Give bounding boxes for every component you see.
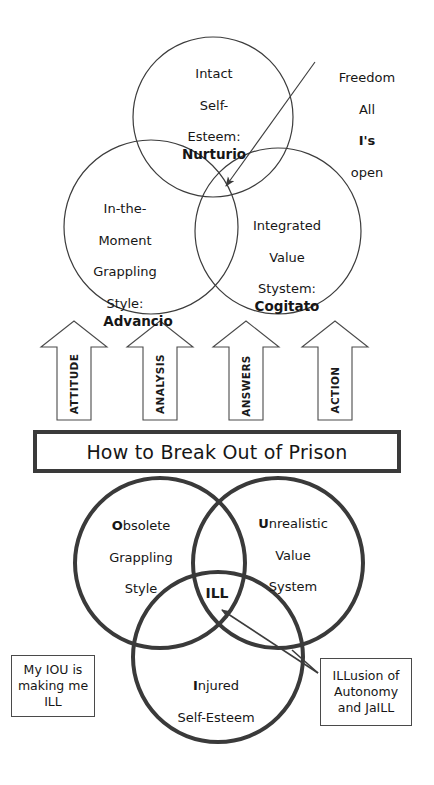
annotation-line: open [351, 165, 383, 180]
label-line: System [269, 579, 317, 594]
label-ill-intersection: ILL [182, 585, 252, 601]
callout-bold-prefix: ILL [333, 668, 350, 683]
label-injured-self-esteem: Injured Self-Esteem [156, 662, 276, 725]
callout-iou: My IOU is making me ILL [11, 655, 95, 717]
banner-title: How to Break Out of Prison [86, 441, 347, 463]
label-line: In-the- [104, 201, 147, 216]
label-line: Style [125, 581, 158, 596]
callout-line: making me [18, 678, 88, 693]
label-line: Style: [106, 296, 143, 311]
label-unrealistic-value-system: Unrealistic Value System [238, 500, 348, 595]
annotation-line: I's [359, 133, 376, 148]
label-line: Self-Esteem [177, 710, 254, 725]
callout-line: and JaILL [338, 700, 394, 715]
label-line: Esteem: [187, 129, 240, 144]
diagram-canvas: Intact Self- Esteem: Nurturio In-the- Mo… [0, 0, 434, 785]
callout-line: My IOU is [24, 662, 83, 677]
label-obsolete-grappling-style: Obsolete Grappling Style [86, 502, 196, 597]
callout-illusion: ILLusion of Autonomy and JaILL [320, 658, 412, 726]
label-initial: O [112, 518, 123, 533]
arrow-label-attitude: ATTITUDE [68, 348, 80, 420]
callout-line: usion of [350, 668, 400, 683]
label-line: Grappling [109, 550, 173, 565]
label-term-cogitato: Cogitato [232, 298, 342, 314]
label-line: Grappling [93, 264, 157, 279]
label-intact-self-esteem: Intact Self- Esteem: Nurturio [158, 50, 270, 178]
banner-box: How to Break Out of Prison [33, 430, 401, 473]
illusion-leader-line-secondary [292, 650, 318, 673]
label-line: Stystem: [258, 281, 316, 296]
label-initial: U [258, 516, 269, 531]
callout-line: ILL [44, 694, 62, 709]
arrow-label-answers: ANSWERS [240, 350, 252, 422]
callout-line: Autonomy [334, 684, 398, 699]
label-line: Value [269, 250, 305, 265]
label-line: Self- [200, 98, 228, 113]
label-integrated-value-stystem: Integrated Value Stystem: Cogitato [232, 202, 342, 330]
label-line: Intact [195, 66, 232, 81]
label-term-nurturio: Nurturio [158, 146, 270, 162]
label-line: Value [275, 548, 311, 563]
label-line: nrealistic [269, 516, 328, 531]
label-line: Moment [98, 233, 151, 248]
label-line: Integrated [253, 218, 321, 233]
label-line: bsolete [123, 518, 171, 533]
label-term-advancio: Advancio [70, 313, 180, 329]
annotation-line: All [359, 102, 375, 117]
label-line: njured [198, 678, 239, 693]
annotation-line: Freedom [339, 70, 395, 85]
arrow-label-analysis: ANALYSIS [154, 348, 166, 420]
label-in-the-moment-grappling-style: In-the- Moment Grappling Style: Advancio [70, 185, 180, 345]
annotation-freedom-all-is-open: Freedom All I's open [318, 54, 416, 181]
arrow-label-action: ACTION [329, 354, 341, 426]
